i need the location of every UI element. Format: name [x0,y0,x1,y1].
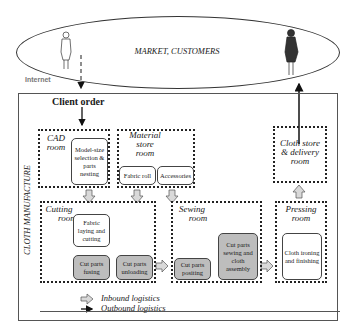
legend-inbound: Inbound logistics [101,293,160,303]
material-title: Materialstoreroom [120,131,170,158]
legend-divider [40,311,340,312]
internet-label: Internet [25,76,51,83]
task-accessories: Accessories [157,166,194,185]
cad-title: CADroom [42,134,70,152]
sewing-title: Sewingroom [175,205,209,223]
delivery-title: Cloth store& deliveryroom [274,139,326,166]
task-fabric-roll: Fabric roll [119,166,156,185]
market-label: MARKET, CUSTOMERS [0,46,354,56]
pressing-title: Pressingroom [276,205,326,223]
task-cut-parts-unloading: Cut parts unloading [116,255,153,280]
task-fabric-laying-cutting: Fabric laying and cutting [73,214,110,247]
task-model-size-selection: Model-size selection & parts nesting [71,138,108,185]
task-cut-parts-positing: Cut parts positing [174,258,211,280]
task-cut-parts-fusing: Cut parts fusing [73,255,110,280]
cutting-title: Cuttingroom [44,205,74,223]
client-order-label: Client order [52,96,105,107]
manufacture-label: CLOTH MANUFACTURE [20,150,34,270]
task-cut-parts-sewing: Cut parts sewing and cloth assembly [218,233,258,280]
task-cloth-ironing: Cloth ironing and finishing [282,233,322,280]
